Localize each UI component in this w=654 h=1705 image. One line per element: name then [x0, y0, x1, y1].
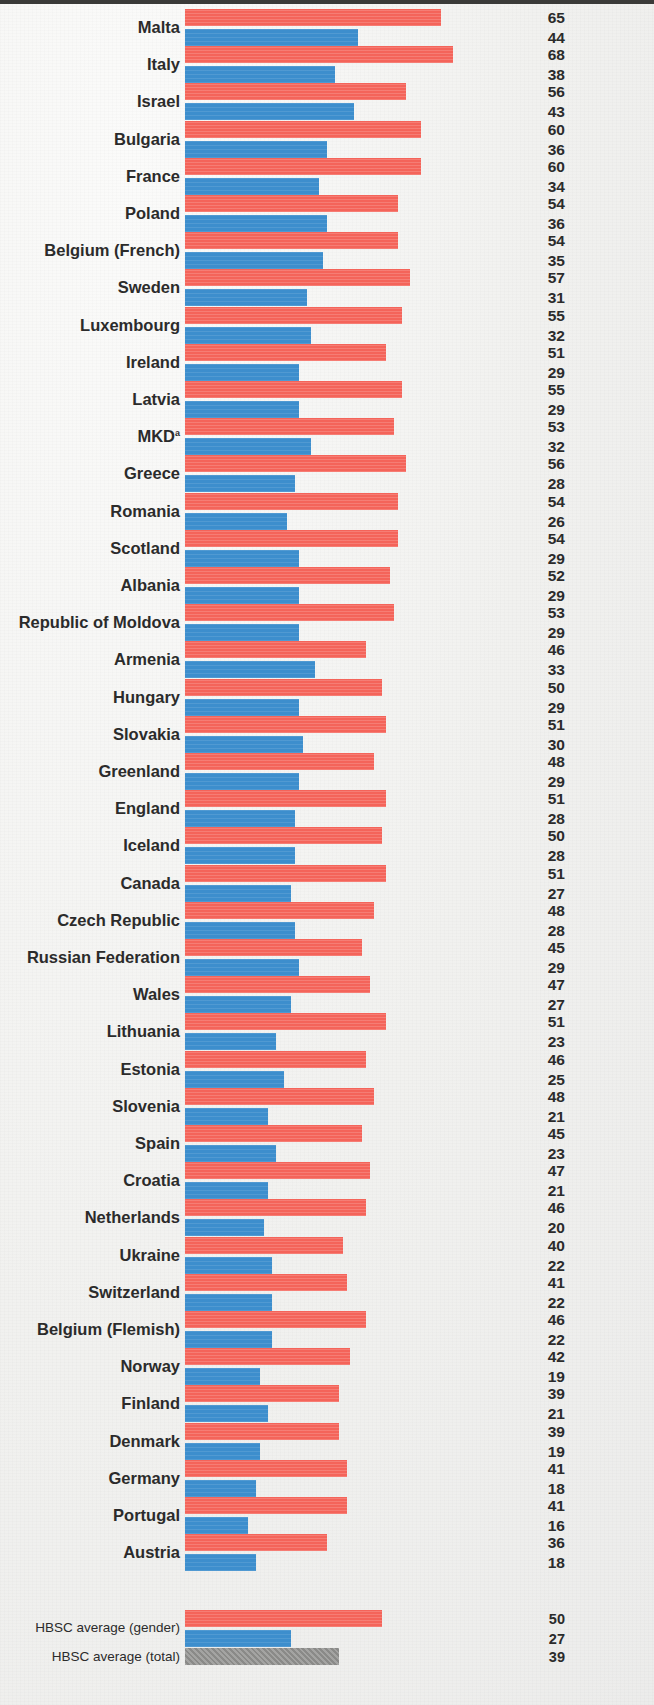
value-label-boys: 51 — [485, 864, 565, 884]
value-label-boys: 41 — [485, 1273, 565, 1293]
category-label: Austria — [0, 1544, 180, 1561]
bar-boys — [185, 790, 386, 807]
bar-group — [185, 790, 386, 827]
value-label-boys: 48 — [485, 752, 565, 772]
value-labels: 4625 — [485, 1050, 565, 1090]
bar-girls — [185, 66, 335, 83]
bar-group — [185, 46, 453, 83]
bar-boys — [185, 1051, 366, 1068]
bar-girls — [185, 1480, 256, 1497]
value-labels: 4829 — [485, 752, 565, 792]
value-label-boys: 55 — [485, 306, 565, 326]
bar-group — [185, 902, 374, 939]
value-labels: 4219 — [485, 1347, 565, 1387]
value-label-boys: 46 — [485, 640, 565, 660]
value-label-boys: 60 — [485, 157, 565, 177]
bar-boys — [185, 641, 366, 658]
value-labels: 4116 — [485, 1496, 565, 1536]
value-labels: 5027 — [485, 1609, 565, 1649]
bar-boys — [185, 1534, 327, 1551]
bar-total — [185, 1648, 339, 1665]
bar-group — [185, 493, 398, 530]
bar-group — [185, 604, 394, 641]
category-label: Scotland — [0, 540, 180, 557]
bar-girls — [185, 550, 299, 567]
category-label: England — [0, 800, 180, 817]
category-label: Armenia — [0, 651, 180, 668]
bar-girls — [185, 475, 295, 492]
category-label: Republic of Moldova — [0, 614, 180, 631]
bar-girls — [185, 1331, 272, 1348]
bar-group — [185, 1199, 366, 1236]
bar-group — [185, 83, 406, 120]
bar-girls — [185, 103, 354, 120]
bar-boys — [185, 530, 398, 547]
bar-girls — [185, 1294, 272, 1311]
value-label-boys: 57 — [485, 268, 565, 288]
bar-girls — [185, 1182, 268, 1199]
category-label: Latvia — [0, 391, 180, 408]
value-labels: 5731 — [485, 268, 565, 308]
category-label: Denmark — [0, 1433, 180, 1450]
bar-boys — [185, 1162, 370, 1179]
bar-group — [185, 567, 390, 604]
bar-boys — [185, 269, 410, 286]
bar-girls — [185, 847, 295, 864]
category-label: Italy — [0, 56, 180, 73]
value-labels: 4633 — [485, 640, 565, 680]
value-labels: 5129 — [485, 343, 565, 383]
value-label-boys: 50 — [485, 678, 565, 698]
bar-group — [185, 1311, 366, 1348]
value-labels: 5229 — [485, 566, 565, 606]
bar-group — [185, 1237, 343, 1274]
value-label-total: 39 — [485, 1647, 565, 1667]
value-label-boys: 51 — [485, 343, 565, 363]
footnote-marker: a — [175, 428, 180, 438]
category-label: Bulgaria — [0, 131, 180, 148]
bar-group — [185, 455, 406, 492]
value-label-boys: 42 — [485, 1347, 565, 1367]
bar-group — [185, 1648, 339, 1665]
category-label: Wales — [0, 986, 180, 1003]
value-labels: 5529 — [485, 380, 565, 420]
value-label-girls: 18 — [485, 1553, 565, 1573]
bar-group — [185, 976, 370, 1013]
bar-girls — [185, 1554, 256, 1571]
bar-girls — [185, 1368, 260, 1385]
bar-boys — [185, 9, 441, 26]
value-label-boys: 56 — [485, 454, 565, 474]
bar-group — [185, 753, 374, 790]
value-label-boys: 46 — [485, 1310, 565, 1330]
bar-boys — [185, 1460, 347, 1477]
bar-boys — [185, 1610, 382, 1627]
category-label: Czech Republic — [0, 912, 180, 929]
category-label: Ukraine — [0, 1247, 180, 1264]
value-labels: 4622 — [485, 1310, 565, 1350]
bar-girls — [185, 438, 311, 455]
value-labels: 4721 — [485, 1161, 565, 1201]
value-label-boys: 65 — [485, 8, 565, 28]
category-label: Luxembourg — [0, 317, 180, 334]
category-label: Russian Federation — [0, 949, 180, 966]
bar-group — [185, 195, 398, 232]
value-label-boys: 54 — [485, 194, 565, 214]
value-labels: 4828 — [485, 901, 565, 941]
value-labels: 6838 — [485, 45, 565, 85]
bar-boys — [185, 679, 382, 696]
bar-group — [185, 827, 382, 864]
bar-group — [185, 344, 386, 381]
value-labels: 5436 — [485, 194, 565, 234]
bar-group — [185, 9, 441, 46]
value-label-boys: 41 — [485, 1459, 565, 1479]
bar-group — [185, 232, 398, 269]
bar-boys — [185, 307, 402, 324]
category-label: Belgium (French) — [0, 242, 180, 259]
value-label-boys: 53 — [485, 603, 565, 623]
category-label: Sweden — [0, 279, 180, 296]
bar-boys — [185, 83, 406, 100]
bar-group — [185, 1610, 382, 1647]
category-label: HBSC average (gender) — [0, 1621, 180, 1635]
category-label: Finland — [0, 1395, 180, 1412]
value-label-boys: 45 — [485, 1124, 565, 1144]
category-label: Ireland — [0, 354, 180, 371]
